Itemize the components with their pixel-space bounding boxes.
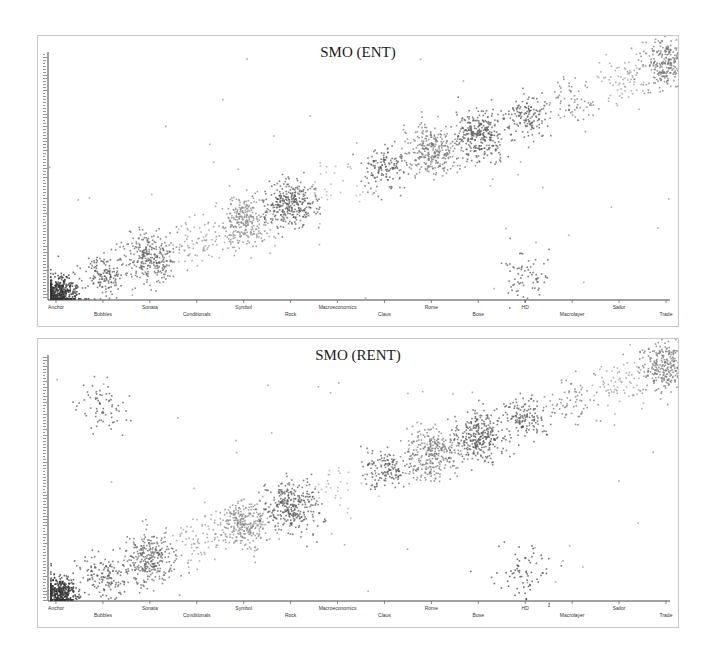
x-tick-label: Conditionals [183, 311, 211, 317]
x-tick-label: Bose [473, 311, 484, 317]
chart-panel-rent: SMO (RENT) AnchorBubblesSonataConditiona… [37, 338, 679, 628]
x-tick-label: Rome [425, 605, 438, 611]
x-tick-label: HD [522, 605, 529, 611]
x-tick-label: Conditionals [183, 612, 211, 618]
scatter-points [50, 339, 678, 607]
x-tick-label: Bubbles [94, 311, 112, 317]
x-tick-label: Rock [285, 612, 296, 618]
x-tick-label: Macroeconomics [319, 605, 357, 611]
x-tick-label: Sailor [613, 304, 626, 310]
x-tick-label: Bubbles [94, 612, 112, 618]
x-tick-label: Macroeconomics [319, 304, 357, 310]
x-tick-label: Trade [660, 311, 673, 317]
x-tick-label: Claus [378, 612, 391, 618]
x-tick-label: Bose [473, 612, 484, 618]
x-tick-label: Claus [378, 311, 391, 317]
x-tick-label: Sailor [613, 605, 626, 611]
x-tick-label: Trade [660, 612, 673, 618]
x-tick-label: Symbol [235, 605, 252, 611]
chart-panel-ent: SMO (ENT) AnchorBubblesSonataConditional… [37, 35, 679, 327]
x-tick-label: Symbol [235, 304, 252, 310]
x-tick-label: Macrolayer [560, 311, 585, 317]
x-tick-label: Rome [425, 304, 438, 310]
x-tick-label: HD [522, 304, 529, 310]
x-tick-label: Macrolayer [560, 612, 585, 618]
x-tick-label: Sonata [142, 605, 158, 611]
x-tick-label: Rock [285, 311, 296, 317]
x-tick-label: Sonata [142, 304, 158, 310]
scatter-points [49, 36, 678, 309]
x-axis-labels: AnchorBubblesSonataConditionalsSymbolRoc… [38, 605, 678, 627]
x-axis-labels: AnchorBubblesSonataConditionalsSymbolRoc… [38, 304, 678, 326]
x-tick-label: Anchor [48, 304, 64, 310]
x-tick-label: Anchor [48, 605, 64, 611]
scatter-plot [38, 339, 678, 627]
scatter-plot [38, 36, 678, 326]
